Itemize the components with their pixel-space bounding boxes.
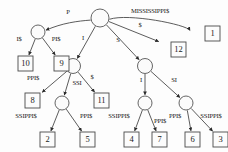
edge-label: PPI$ bbox=[169, 112, 182, 119]
tree-node bbox=[31, 25, 45, 39]
leaf-node: 10 bbox=[18, 56, 33, 71]
edge-label: I bbox=[82, 34, 84, 41]
leaf-label: 5 bbox=[85, 134, 89, 144]
leaf-node: 7 bbox=[152, 132, 167, 147]
leaf-label: 8 bbox=[30, 95, 34, 105]
leaf-node: 4 bbox=[124, 132, 139, 147]
edge-label: PI$ bbox=[52, 35, 62, 42]
tree-edge bbox=[64, 74, 70, 95]
tree-node bbox=[91, 9, 109, 27]
leaf-label: 12 bbox=[174, 44, 183, 54]
leaf-label: 10 bbox=[21, 58, 30, 68]
edge-label: MISSISSIPPI$ bbox=[131, 7, 170, 14]
leaf-label: 9 bbox=[59, 58, 63, 68]
edge-label: SSIPPI$ bbox=[15, 112, 37, 119]
leaf-label: 3 bbox=[218, 134, 222, 144]
edge-label: I$ bbox=[16, 35, 22, 42]
edge-label: S bbox=[116, 36, 120, 43]
tree-edge bbox=[135, 110, 143, 131]
edge-label: PPI$ bbox=[27, 74, 40, 81]
tree-edge bbox=[42, 71, 67, 92]
leaf-node: 5 bbox=[80, 132, 95, 147]
tree-edge bbox=[46, 20, 91, 30]
edge-label: $ bbox=[138, 21, 142, 28]
edge-label: SSIPPI$ bbox=[200, 112, 222, 119]
tree-edge bbox=[77, 26, 95, 58]
leaf-label: 1 bbox=[210, 28, 214, 38]
suffix-tree-diagram: 112109811254763 PMISSISSIPPI$$ISI$PI$PPI… bbox=[0, 0, 228, 152]
edge-label: I bbox=[140, 76, 142, 83]
tree-node bbox=[179, 96, 193, 110]
edge-label: $ bbox=[90, 73, 94, 80]
leaf-node: 9 bbox=[54, 56, 69, 71]
leaf-label: 7 bbox=[157, 134, 161, 144]
tree-edge bbox=[109, 17, 190, 30]
leaf-node: 1 bbox=[205, 26, 220, 41]
leaf-label: 6 bbox=[190, 134, 194, 144]
leaf-node: 11 bbox=[94, 93, 109, 108]
tree-edge bbox=[187, 110, 191, 130]
edge-label: PPI$ bbox=[80, 112, 93, 119]
tree-node bbox=[55, 96, 69, 110]
tree-node bbox=[138, 96, 152, 110]
edge-label: SSIPPI$ bbox=[108, 112, 130, 119]
edge-label: SSI bbox=[72, 79, 81, 86]
leaf-node: 12 bbox=[171, 42, 186, 57]
tree-edge bbox=[106, 25, 139, 60]
edge-label: SI bbox=[171, 76, 177, 83]
leaf-label: 11 bbox=[97, 95, 105, 105]
tree-edge bbox=[51, 110, 59, 131]
leaf-node: 8 bbox=[25, 93, 40, 108]
leaf-node: 3 bbox=[213, 132, 228, 147]
tree-canvas: 112109811254763 PMISSISSIPPI$$ISI$PI$PPI… bbox=[0, 0, 228, 152]
leaf-label: 2 bbox=[45, 134, 49, 144]
tree-node bbox=[138, 59, 153, 74]
tree-edge bbox=[29, 39, 35, 55]
leaf-node: 2 bbox=[40, 132, 55, 147]
leaf-node: 6 bbox=[185, 132, 200, 147]
edge-label: P bbox=[66, 8, 70, 15]
edge-label: PPI$ bbox=[154, 117, 167, 124]
